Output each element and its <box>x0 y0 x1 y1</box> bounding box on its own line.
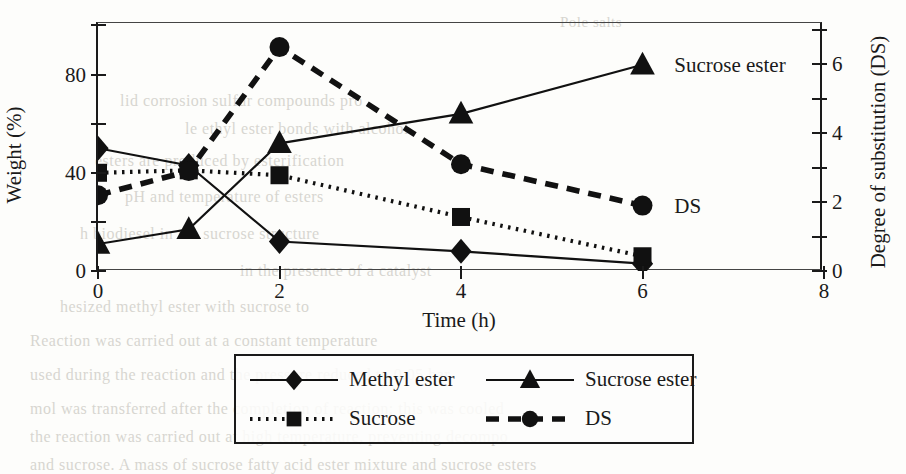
y-right-tick-major <box>812 63 827 65</box>
y-tick-minor <box>91 24 106 26</box>
data-point-marker <box>634 247 652 265</box>
data-point-marker <box>452 208 470 226</box>
x-tick <box>642 266 644 279</box>
data-point-marker <box>451 154 471 174</box>
y-tick-label: 0 <box>76 261 87 282</box>
y-tick-minor <box>91 123 106 125</box>
data-point-marker <box>179 161 199 181</box>
legend-item-ds[interactable]: DS <box>484 408 696 430</box>
series-line <box>98 47 643 205</box>
data-point-marker <box>633 196 653 216</box>
series-sucrose-ester <box>98 52 655 254</box>
series-methyl-ester <box>98 136 653 271</box>
x-tick <box>460 266 462 279</box>
x-tick-label: 4 <box>456 281 467 302</box>
x-tick-label: 2 <box>274 281 285 302</box>
y-tick-label: 40 <box>65 162 86 183</box>
bleed-text-line: Reaction was carried out at a constant t… <box>30 332 378 350</box>
x-tick <box>823 266 825 279</box>
series-line <box>98 65 643 244</box>
x-tick-label: 0 <box>93 281 104 302</box>
y-axis-right-title: Degree of substitution (DS) <box>866 36 891 269</box>
legend-item-label: Sucrose <box>349 408 416 429</box>
y-right-tick-label: 4 <box>832 123 843 144</box>
chart-legend: Methyl esterSucrose esterSucroseDS <box>234 354 694 444</box>
x-tick-label: 8 <box>819 281 830 302</box>
y-right-tick-major <box>812 201 827 203</box>
y-right-tick-label: 6 <box>832 54 843 75</box>
legend-item-label: Sucrose ester <box>585 369 696 390</box>
y-right-tick-label: 0 <box>832 261 843 282</box>
data-point-marker <box>98 136 109 161</box>
y-right-tick-minor <box>812 167 827 169</box>
series-ds <box>98 37 653 215</box>
series-annotation: DS <box>674 193 701 218</box>
bleed-text-line: and sucrose. A mass of sucrose fatty aci… <box>30 456 537 474</box>
x-tick <box>97 266 99 279</box>
y-right-tick-minor <box>812 29 827 31</box>
legend-item-label: DS <box>585 408 612 429</box>
data-point-marker <box>450 239 471 264</box>
x-axis-title: Time (h) <box>422 308 495 333</box>
legend-key-circle-icon <box>484 408 576 430</box>
y-right-tick-minor <box>812 236 827 238</box>
data-point-marker <box>270 37 290 57</box>
plot-area: 04080024602468 Sucrose esterDS <box>96 22 822 270</box>
y-right-tick-minor <box>812 98 827 100</box>
legend-item-methyl-ester[interactable]: Methyl ester <box>248 369 484 391</box>
y-right-tick-major <box>812 132 827 134</box>
y-axis-title: Weight (%) <box>2 107 27 204</box>
data-point-marker <box>269 229 290 254</box>
series-annotation: Sucrose ester <box>674 52 785 77</box>
y-tick-major <box>91 74 106 76</box>
y-right-tick-label: 2 <box>832 192 843 213</box>
legend-key-diamond-icon <box>248 369 340 391</box>
x-tick-label: 6 <box>637 281 648 302</box>
data-point-marker <box>271 166 289 184</box>
data-point-marker <box>630 52 655 75</box>
legend-key-square-icon <box>248 408 340 430</box>
y-tick-major <box>91 172 106 174</box>
y-tick-minor <box>91 221 106 223</box>
legend-key-triangle-icon <box>484 369 576 391</box>
data-point-marker <box>98 185 108 205</box>
legend-item-sucrose-ester[interactable]: Sucrose ester <box>484 369 696 391</box>
series-line <box>98 170 643 256</box>
x-tick <box>279 266 281 279</box>
legend-item-label: Methyl ester <box>349 369 455 390</box>
legend-item-sucrose[interactable]: Sucrose <box>248 408 484 430</box>
y-tick-label: 80 <box>65 64 86 85</box>
